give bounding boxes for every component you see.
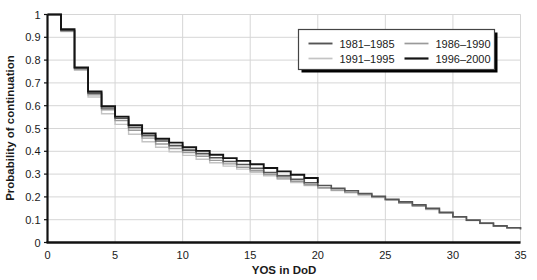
y-tick-label: 0.1 [25, 214, 40, 226]
chart-legend: 1981–19851986–19901991–19951996–2000 [299, 30, 498, 73]
x-axis-title: YOS in DoD [252, 264, 317, 276]
x-tick-label: 35 [514, 249, 526, 261]
y-tick-label: 0.3 [25, 168, 40, 180]
y-tick-label: 0.7 [25, 77, 40, 89]
y-tick-label: 1 [34, 9, 40, 21]
y-tick-label: 0.6 [25, 100, 40, 112]
x-tick-label: 5 [112, 249, 118, 261]
x-tick-label: 10 [177, 249, 189, 261]
y-tick-label: 0 [34, 237, 40, 249]
legend-item-label: 1986–1990 [436, 38, 491, 50]
y-axis-title: Probability of continuation [4, 55, 16, 201]
y-tick-label: 0.2 [25, 191, 40, 203]
x-tick-label: 15 [244, 249, 256, 261]
x-tick-label: 0 [44, 249, 50, 261]
x-tick-label: 25 [379, 249, 391, 261]
x-tick-label: 20 [312, 249, 324, 261]
chart-figure: 00.10.20.30.40.50.60.70.80.9105101520253… [0, 0, 537, 280]
x-tick-label: 30 [447, 249, 459, 261]
y-tick-label: 0.8 [25, 54, 40, 66]
legend-item-label: 1996–2000 [436, 53, 491, 65]
legend-item-label: 1981–1985 [340, 38, 395, 50]
chart-canvas: 00.10.20.30.40.50.60.70.80.9105101520253… [0, 0, 537, 280]
legend-item-label: 1991–1995 [340, 53, 395, 65]
y-tick-label: 0.9 [25, 31, 40, 43]
y-tick-label: 0.5 [25, 123, 40, 135]
y-tick-label: 0.4 [25, 145, 40, 157]
